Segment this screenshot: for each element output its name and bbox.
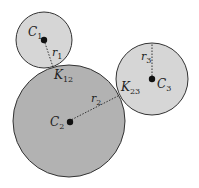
diagram-svg: C1 r1 K12 C2 r2 K23 C3 r3 — [0, 0, 199, 188]
tangent-circles-diagram: C1 r1 K12 C2 r2 K23 C3 r3 — [0, 0, 199, 188]
center-dot-c3 — [149, 76, 155, 82]
center-dot-c2 — [67, 119, 73, 125]
